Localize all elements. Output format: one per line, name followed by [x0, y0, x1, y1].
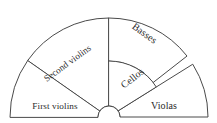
sector-label-violas: Violas	[151, 100, 177, 111]
orchestra-fan-diagram: First violinsSecond violinsBassesCellosV…	[0, 0, 217, 123]
sector-label-first-violins: First violins	[32, 101, 78, 111]
diagram-canvas: First violinsSecond violinsBassesCellosV…	[0, 0, 217, 123]
